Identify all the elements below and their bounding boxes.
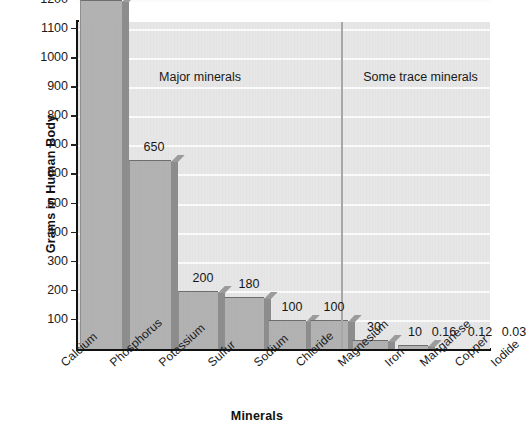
bar-value-label: 100 <box>312 300 356 314</box>
bar-value-label: 100 <box>270 300 314 314</box>
gridline <box>78 87 490 89</box>
group-label-trace-minerals: Some trace minerals <box>348 70 493 84</box>
bar-top-face <box>171 155 185 162</box>
group-label-major-minerals: Major minerals <box>110 70 290 84</box>
y-axis-tick-label: 300 <box>4 254 68 268</box>
bar-value-label: 180 <box>227 277 271 291</box>
y-axis-tick <box>71 28 77 30</box>
y-axis-tick <box>71 144 77 146</box>
y-axis-tick-label: 100 <box>4 312 68 326</box>
y-axis-tick-label: 200 <box>4 283 68 297</box>
y-axis-tick-label: 1100 <box>4 21 68 35</box>
gridline <box>78 58 490 60</box>
y-axis-tick <box>71 261 77 263</box>
x-axis-title-text: Minerals <box>231 409 283 423</box>
y-axis-tick-label: 600 <box>4 166 68 180</box>
gridline <box>78 29 490 31</box>
bar-side-face <box>122 1 129 349</box>
bar-side-face <box>171 161 178 349</box>
y-axis-tick <box>71 115 77 117</box>
x-axis-title: Minerals <box>0 409 506 423</box>
bar-iron <box>398 345 428 349</box>
y-axis-tick <box>71 57 77 59</box>
y-axis-tick <box>71 290 77 292</box>
y-axis-tick-label: 400 <box>4 225 68 239</box>
y-axis-tick-label: 500 <box>4 196 68 210</box>
gridline <box>78 116 490 118</box>
x-axis-label-iodide: Iodide <box>488 337 522 370</box>
bar-value-label: 200 <box>181 271 225 285</box>
y-axis-tick-label: 900 <box>4 79 68 93</box>
y-axis-tick <box>71 203 77 205</box>
y-axis-tick-label: 800 <box>4 108 68 122</box>
y-axis-tick-label: 700 <box>4 137 68 151</box>
y-axis-tick-label: 1000 <box>4 50 68 64</box>
bar-calcium <box>80 0 122 349</box>
y-axis-tick <box>71 86 77 88</box>
y-axis-tick-label: 1200 <box>4 0 68 6</box>
y-axis-tick <box>71 319 77 321</box>
y-axis-tick <box>71 232 77 234</box>
bar-value-label: 650 <box>132 140 176 154</box>
y-axis-tick <box>71 173 77 175</box>
gridline <box>78 0 490 2</box>
